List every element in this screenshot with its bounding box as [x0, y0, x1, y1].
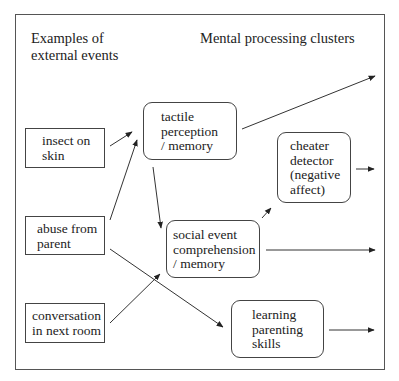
- arrow-tactile-to-social: [153, 167, 161, 228]
- arrow-social-to-cheater: [262, 208, 271, 218]
- arrow-insect-to-tactile: [110, 132, 132, 146]
- arrow-tactile-output: [242, 76, 375, 129]
- arrow-abuse-to-tactile: [110, 140, 137, 220]
- arrow-abuse-to-learning: [110, 249, 223, 327]
- connection-arrows: [0, 0, 399, 381]
- arrow-conversation-to-social: [110, 274, 160, 323]
